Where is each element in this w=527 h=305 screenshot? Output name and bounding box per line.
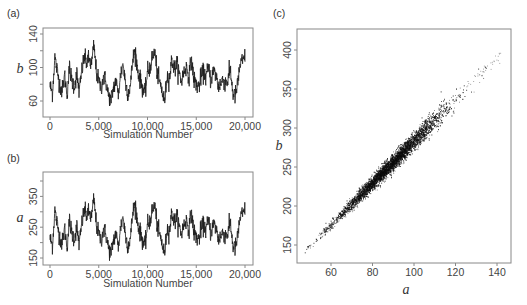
panel-b-y-axis: 150250350 bbox=[27, 181, 43, 267]
svg-text:150: 150 bbox=[27, 249, 39, 267]
panel-a: (a) 05,00010,00015,00020,000 60100140 Si… bbox=[7, 7, 261, 140]
svg-text:200: 200 bbox=[281, 197, 293, 215]
panel-b-label: (b) bbox=[7, 152, 20, 164]
svg-text:100: 100 bbox=[405, 266, 423, 278]
svg-text:0: 0 bbox=[47, 120, 53, 132]
svg-text:400: 400 bbox=[281, 41, 293, 59]
svg-text:350: 350 bbox=[27, 187, 39, 205]
panel-b: (b) 05,00010,00015,00020,000 150250350 S… bbox=[7, 152, 261, 289]
panel-c: (c) 6080100120140 150200250300350400 a b bbox=[273, 7, 511, 297]
svg-text:250: 250 bbox=[281, 158, 293, 176]
svg-text:100: 100 bbox=[27, 59, 39, 77]
panel-a-y-label: b bbox=[17, 61, 24, 76]
panel-b-x-label: Simulation Number bbox=[103, 277, 193, 289]
svg-text:0: 0 bbox=[47, 268, 53, 280]
svg-text:60: 60 bbox=[325, 266, 337, 278]
panel-c-label: (c) bbox=[273, 7, 285, 19]
panel-c-x-label: a bbox=[403, 282, 410, 297]
panel-a-label: (a) bbox=[7, 7, 20, 19]
panel-c-x-axis: 6080100120140 bbox=[325, 263, 506, 278]
panel-b-y-label: a bbox=[17, 210, 24, 225]
svg-text:150: 150 bbox=[281, 236, 293, 254]
panel-c-scatter-points bbox=[305, 53, 501, 253]
panel-a-y-axis: 60100140 bbox=[27, 25, 43, 107]
svg-text:20,000: 20,000 bbox=[229, 120, 261, 132]
panel-a-frame bbox=[43, 28, 253, 117]
svg-text:140: 140 bbox=[27, 25, 39, 43]
svg-text:80: 80 bbox=[367, 266, 379, 278]
svg-text:300: 300 bbox=[281, 119, 293, 137]
panel-c-y-axis: 150200250300350400 bbox=[281, 41, 297, 254]
svg-text:140: 140 bbox=[488, 266, 506, 278]
svg-text:350: 350 bbox=[281, 80, 293, 98]
panel-a-trace bbox=[50, 40, 245, 106]
figure: (a) 05,00010,00015,00020,000 60100140 Si… bbox=[0, 0, 527, 305]
svg-text:250: 250 bbox=[27, 218, 39, 236]
panel-c-y-label: b bbox=[276, 138, 283, 153]
svg-text:60: 60 bbox=[27, 95, 39, 107]
svg-text:120: 120 bbox=[447, 266, 465, 278]
svg-text:20,000: 20,000 bbox=[229, 268, 261, 280]
panel-b-trace bbox=[50, 193, 245, 260]
panel-a-x-label: Simulation Number bbox=[103, 128, 193, 140]
